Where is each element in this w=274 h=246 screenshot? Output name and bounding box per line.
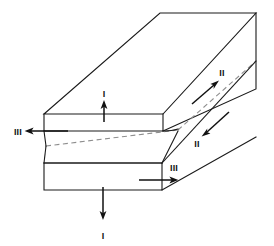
crack-tip-connector-lower — [162, 131, 178, 163]
mode-i-top-label: I — [103, 89, 106, 99]
upper-block — [44, 13, 256, 146]
mode-ii-load-group: II II — [192, 68, 229, 149]
lower-block-right-top-edge — [162, 61, 256, 163]
crack-lower-flank — [44, 146, 46, 163]
crack-plane-right-dashed-line — [178, 61, 256, 130]
upper-block-left-flank — [44, 131, 46, 146]
fracture-modes-canvas: I I II II III III — [0, 0, 274, 246]
mode-ii-lower-arrow-shaft — [207, 112, 229, 132]
crack-front-dashed-line — [46, 130, 178, 146]
upper-block-top-face — [44, 13, 256, 114]
upper-block-right-face — [163, 13, 256, 131]
mode-iii-load-group: III III — [14, 127, 179, 184]
mode-ii-upper-label: II — [219, 68, 224, 78]
lower-block — [44, 61, 256, 190]
mode-iii-left-label: III — [14, 127, 22, 137]
fracture-modes-diagram: I I II II III III — [0, 0, 274, 246]
lower-block-front-face — [44, 163, 162, 190]
mode-ii-lower-label: II — [194, 139, 199, 149]
mode-iii-right-label: III — [170, 163, 178, 173]
mode-i-load-group: I I — [100, 89, 108, 241]
mode-i-bottom-label: I — [102, 231, 105, 241]
